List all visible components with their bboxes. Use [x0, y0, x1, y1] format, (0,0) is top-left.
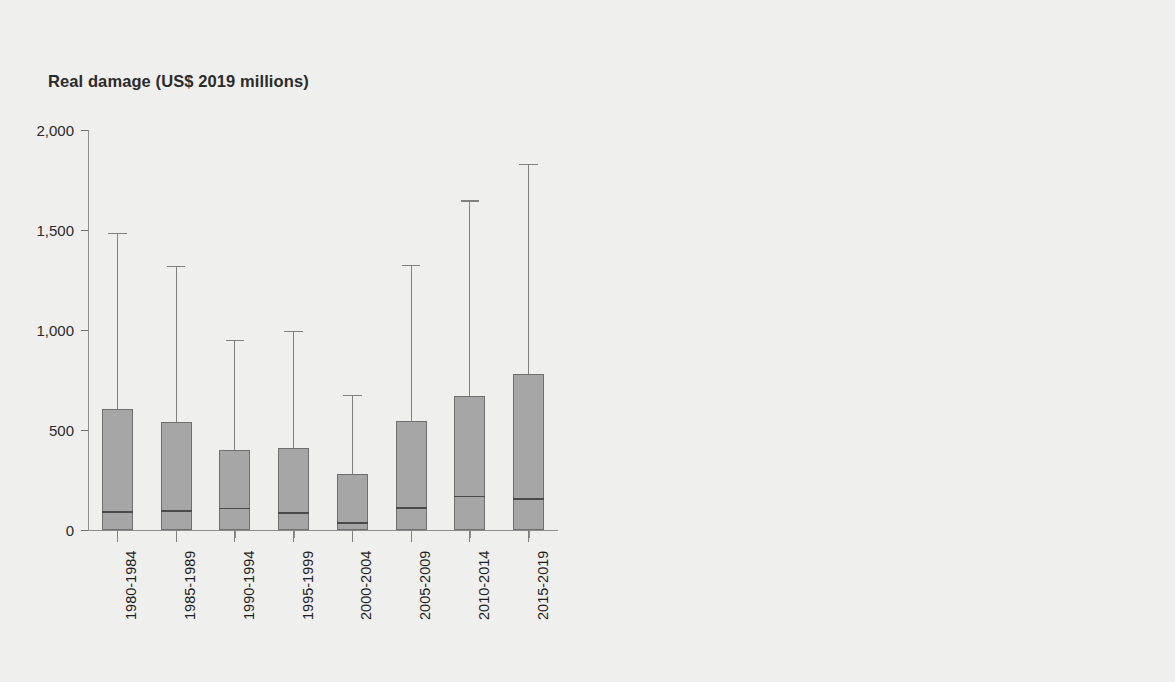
whisker-cap-upper [519, 164, 538, 165]
box-plot-median [102, 511, 133, 513]
y-tick-mark [81, 530, 88, 531]
x-tick-label: 2000-2004 [358, 551, 374, 620]
plot-area-real-damage: 05001,0001,5002,0001980-19841985-1989199… [88, 130, 558, 530]
panel-title-real-damage: Real damage (US$ 2019 millions) [48, 72, 309, 91]
panel-affected-people: Affected people (thousands) 010020030040… [588, 0, 1175, 682]
whisker-lower [528, 530, 529, 542]
box-plot-box[interactable] [278, 448, 309, 530]
whisker-upper [293, 331, 294, 448]
whisker-cap-upper [167, 266, 186, 267]
whisker-lower [352, 530, 353, 542]
x-tick-label: 2015-2019 [535, 551, 551, 620]
whisker-cap-upper [343, 395, 362, 396]
whisker-cap-upper [226, 340, 245, 341]
x-axis-line [88, 530, 558, 531]
whisker-upper [528, 164, 529, 374]
box-plot-median [278, 512, 309, 514]
box-plot-median [513, 498, 544, 500]
x-tick-label: 1985-1989 [182, 551, 198, 620]
whisker-cap-upper [402, 265, 421, 266]
y-tick-label: 1,500 [36, 222, 74, 239]
box-plot-box[interactable] [396, 421, 427, 530]
x-tick-label: 2005-2009 [417, 551, 433, 620]
y-tick-label: 1,000 [36, 322, 74, 339]
panel-real-damage: Real damage (US$ 2019 millions) 05001,00… [0, 0, 588, 682]
whisker-lower [293, 530, 294, 542]
whisker-upper [411, 265, 412, 421]
whisker-lower [117, 530, 118, 542]
whisker-upper [176, 266, 177, 422]
whisker-cap-upper [284, 331, 303, 332]
whisker-upper [469, 200, 470, 396]
x-tick-label: 1995-1999 [300, 551, 316, 620]
whisker-upper [234, 340, 235, 450]
whisker-cap-upper [108, 233, 127, 234]
box-plot-median [161, 510, 192, 512]
whisker-cap-upper [461, 200, 480, 201]
y-tick-mark [81, 230, 88, 231]
y-tick-label: 500 [49, 422, 74, 439]
x-tick-label: 2010-2014 [476, 551, 492, 620]
y-tick-label: 0 [66, 522, 74, 539]
box-plot-box[interactable] [161, 422, 192, 530]
box-plot-median [337, 522, 368, 524]
box-plot-median [219, 508, 250, 510]
figure-canvas: Real damage (US$ 2019 millions) 05001,00… [0, 0, 1175, 682]
box-plot-box[interactable] [513, 374, 544, 530]
whisker-lower [176, 530, 177, 542]
y-tick-mark [81, 430, 88, 431]
box-plot-box[interactable] [454, 396, 485, 530]
y-axis-line [88, 130, 89, 530]
x-tick-label: 1980-1984 [123, 551, 139, 620]
y-tick-mark [81, 130, 88, 131]
whisker-upper [117, 233, 118, 409]
x-tick-label: 1990-1994 [241, 551, 257, 620]
box-plot-median [396, 507, 427, 509]
whisker-upper [352, 395, 353, 474]
y-tick-mark [81, 330, 88, 331]
box-plot-box[interactable] [219, 450, 250, 530]
box-plot-median [454, 496, 485, 498]
whisker-lower [234, 530, 235, 542]
whisker-lower [411, 530, 412, 542]
y-tick-label: 2,000 [36, 122, 74, 139]
whisker-lower [469, 530, 470, 542]
